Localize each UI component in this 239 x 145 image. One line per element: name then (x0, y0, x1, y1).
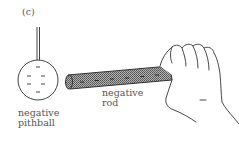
rod-label-line1: negative (102, 88, 143, 97)
pithball-label-line1: negative (18, 108, 59, 117)
pithball (18, 60, 58, 100)
negative-rod (66, 66, 173, 89)
pithball-label-line2: pithball (18, 118, 55, 127)
thread (37, 27, 40, 61)
panel-label: (c) (22, 7, 35, 16)
hand-icon (160, 44, 239, 124)
rod-label-line2: rod (102, 98, 118, 107)
